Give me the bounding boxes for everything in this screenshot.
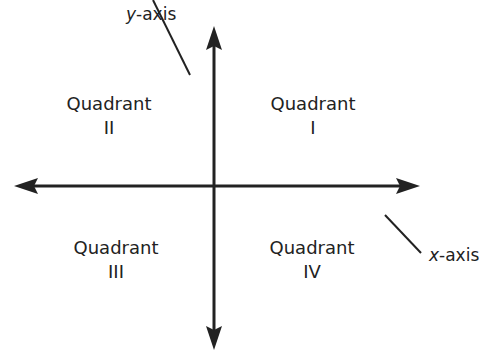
quadrant-iii-label: QuadrantIII [56, 236, 176, 284]
quadrant-iv-label: QuadrantIV [252, 236, 372, 284]
x-axis-label: x-axis [429, 245, 479, 265]
coordinate-plane-diagram: y-axis x-axis QuadrantI QuadrantII Quadr… [0, 0, 497, 360]
y-axis-label: y-axis [126, 4, 176, 24]
quadrant-ii-label: QuadrantII [49, 92, 169, 140]
quadrant-i-label: QuadrantI [253, 92, 373, 140]
x-axis-leader-line [385, 215, 421, 253]
axes-graphic [0, 0, 497, 360]
